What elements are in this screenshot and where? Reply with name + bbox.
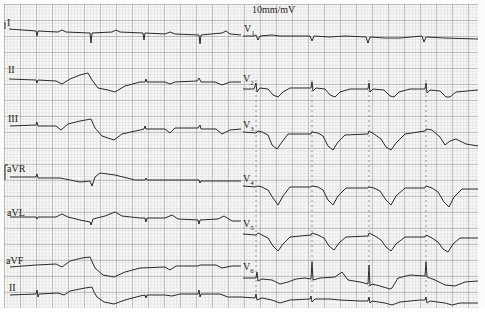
trace-lead-I xyxy=(9,29,241,44)
trace-rhythm-II-left xyxy=(10,287,241,304)
trace-lead-V1 xyxy=(243,35,478,43)
trace-lead-V4 xyxy=(243,186,478,207)
lead-change-markers xyxy=(256,80,426,295)
lead-label-I: I xyxy=(7,18,10,28)
trace-lead-V6 xyxy=(243,262,478,289)
lead-label-V3: V3 xyxy=(243,120,254,134)
lead-label-rhythm-II: II xyxy=(9,283,16,293)
lead-label-V6: V6 xyxy=(243,262,254,276)
lead-label-aVF: aVF xyxy=(6,256,23,266)
lead-label-II: II xyxy=(8,65,15,75)
trace-lead-II xyxy=(9,73,241,92)
paper-margin xyxy=(0,308,485,318)
trace-lead-III xyxy=(10,119,241,140)
lead-label-V2: V2 xyxy=(243,74,254,88)
trace-lead-aVF xyxy=(10,257,241,277)
lead-label-V5: V5 xyxy=(243,219,254,233)
lead-label-V4: V4 xyxy=(243,174,254,188)
trace-lead-V3 xyxy=(243,129,478,150)
lead-label-aVR: aVR xyxy=(7,164,25,174)
calibration-label: 10mm/mV xyxy=(252,4,295,15)
trace-lead-aVL xyxy=(10,212,241,225)
calibration-pulses xyxy=(5,22,8,180)
trace-rhythm-II-right xyxy=(241,294,478,305)
lead-label-V1: V1 xyxy=(244,24,255,38)
lead-label-III: III xyxy=(8,114,18,124)
trace-lead-V5 xyxy=(243,233,478,252)
trace-lead-V2 xyxy=(243,82,478,97)
trace-lead-aVR xyxy=(10,173,241,186)
lead-label-aVL: aVL xyxy=(7,208,25,218)
